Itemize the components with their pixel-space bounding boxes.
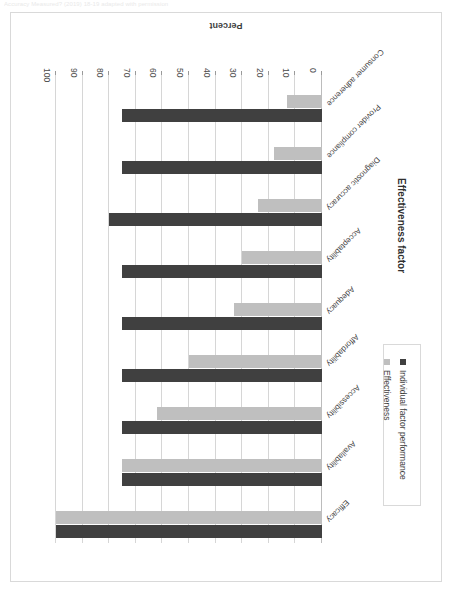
bar-group [56,491,322,543]
value-axis-title-text: Percent [209,21,242,31]
bar-group [56,283,322,335]
bar [56,511,322,524]
category-label: Adequacy [325,285,357,317]
bar [123,473,323,486]
bar [123,265,323,278]
bar [56,525,322,538]
bar-group [56,439,322,491]
tick-mark [108,71,109,75]
category-label: Efficacy [325,498,351,524]
legend-item[interactable]: Individual factor performance [398,359,408,505]
bar [258,199,322,212]
bar-group [56,179,322,231]
bar [123,459,323,472]
legend-swatch-icon [400,359,406,365]
bar-group [56,127,322,179]
category-axis-title: Effectiveness factor [396,178,407,273]
tick-mark [268,71,269,75]
legend-items: Individual factor performanceEffectivene… [376,359,414,505]
figure-page: Accuracy Measured? (2019) 18-19 adapted … [0,0,450,589]
bar-group [56,75,322,127]
value-axis-tick-label: 80 [95,68,105,77]
bar [123,161,323,174]
legend-label: Effectiveness [382,370,392,420]
bar [274,147,322,160]
tick-mark [215,71,216,75]
category-label: Consumer adherence [325,48,386,109]
bar [234,303,322,316]
figure-caption: Accuracy Measured? (2019) 18-19 adapted … [4,1,304,10]
bar [123,369,323,382]
category-axis-title-text: Effectiveness factor [396,178,407,273]
chart-area: 0102030405060708090100 Percent EfficacyA… [11,13,441,581]
chart-frame: 0102030405060708090100 Percent EfficacyA… [10,12,442,582]
value-axis-tick-label: 90 [69,68,79,77]
tick-mark [82,71,83,75]
tick-mark [135,71,136,75]
value-axis-tick-label: 40 [202,68,212,77]
legend-label: Individual factor performance [398,370,408,480]
bar [242,251,322,264]
bar-group [56,231,322,283]
tick-mark [294,71,295,75]
bar [189,355,322,368]
tick-mark [161,71,162,75]
legend-item[interactable]: Effectiveness [382,359,392,505]
tick-mark [321,71,322,75]
tick-mark [241,71,242,75]
value-axis-tick-label: 10 [281,68,291,77]
category-label: Accessibility [325,383,362,420]
tick-mark [55,71,56,75]
value-axis-tick-label: 0 [308,68,318,73]
category-label: Availability [325,439,358,472]
chart-legend: Individual factor performanceEffectivene… [383,344,421,506]
value-axis-tick-label: 60 [148,68,158,77]
category-label: Affordability [325,333,361,369]
bar [123,317,323,330]
bar [123,109,323,122]
bar-group [56,335,322,387]
plot-area [56,75,322,543]
value-axis-title: Percent [11,21,441,31]
category-label: Acceptability [325,226,363,264]
value-axis-tick-label: 100 [42,68,52,82]
tick-mark [188,71,189,75]
legend-swatch-icon [384,359,390,365]
value-axis-tick-label: 50 [175,68,185,77]
category-label: Provider compliance [325,103,383,161]
value-axis-tick-label: 70 [122,68,132,77]
bar [287,95,322,108]
category-label: Diagnostic accuracy [325,155,382,212]
bar [109,213,322,226]
bar-group [56,387,322,439]
value-axis-tick-label: 20 [255,68,265,77]
value-axis-tick-label: 30 [228,68,238,77]
bar [123,421,323,434]
bar [157,407,322,420]
